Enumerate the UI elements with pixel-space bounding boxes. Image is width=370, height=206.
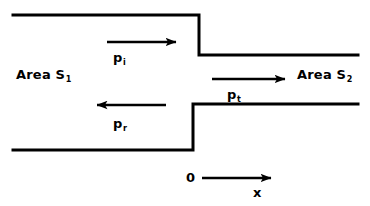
transmitted-wave-symbol: p <box>227 87 237 102</box>
area-label-right-subscript: 2 <box>347 75 353 84</box>
transmitted-wave-subscript: t <box>237 95 241 104</box>
diagram-canvas <box>0 0 370 206</box>
duct-discontinuity-diagram: Area S1 Area S2 pi pr pt 0 x <box>0 0 370 206</box>
origin-label: 0 <box>186 171 195 184</box>
area-label-left-text: Area S <box>16 67 65 82</box>
area-label-left-subscript: 1 <box>66 75 72 84</box>
area-label-right: Area S2 <box>297 68 352 81</box>
area-label-right-text: Area S <box>297 67 346 82</box>
area-label-left: Area S1 <box>16 68 71 81</box>
reflected-wave-label: pr <box>113 117 127 130</box>
x-axis-label: x <box>253 186 262 199</box>
upper-wall <box>13 15 358 55</box>
reflected-wave-subscript: r <box>123 124 127 133</box>
lower-wall <box>13 104 358 150</box>
incident-wave-subscript: i <box>123 58 126 67</box>
incident-wave-label: pi <box>113 51 125 64</box>
reflected-wave-symbol: p <box>113 116 123 131</box>
transmitted-wave-label: pt <box>227 88 241 101</box>
incident-wave-symbol: p <box>113 50 123 65</box>
